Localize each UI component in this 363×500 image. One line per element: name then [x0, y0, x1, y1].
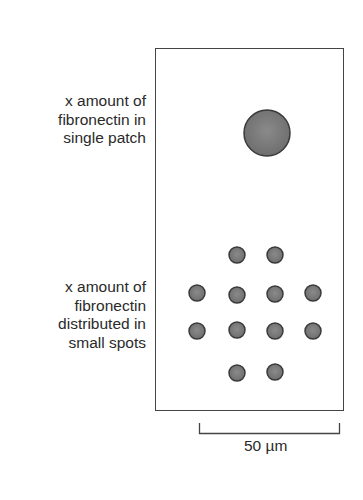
diagram-art [0, 0, 363, 500]
small-spot-circle [229, 247, 245, 263]
small-fibronectin-spots [189, 247, 321, 381]
small-spot-circle [189, 323, 205, 339]
small-spot-circle [229, 322, 245, 338]
large-fibronectin-patch [244, 110, 290, 156]
scale-bar [200, 423, 340, 434]
small-spot-circle [267, 286, 283, 302]
small-spot-circle [229, 365, 245, 381]
small-spot-circle [267, 247, 283, 263]
small-spot-circle [267, 364, 283, 380]
small-spot-circle [189, 285, 205, 301]
small-spot-circle [229, 287, 245, 303]
small-spot-circle [267, 323, 283, 339]
small-spot-circle [305, 323, 321, 339]
scale-bar-label: 50 µm [244, 437, 287, 455]
small-spot-circle [305, 285, 321, 301]
large-patch-circle [244, 110, 290, 156]
